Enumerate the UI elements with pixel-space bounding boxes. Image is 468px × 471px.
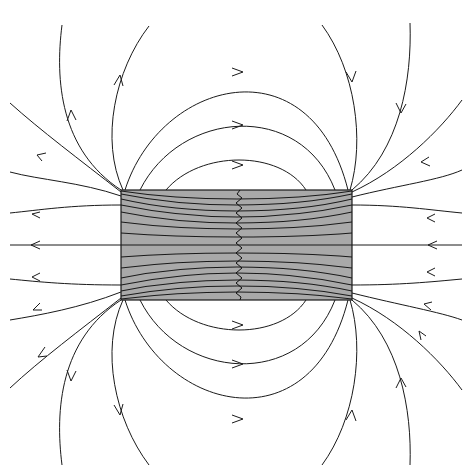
field-lines-bottom (10, 279, 462, 465)
bar-magnet-field-diagram (0, 0, 468, 471)
field-lines-top (10, 23, 462, 213)
bar-magnet (121, 190, 352, 300)
